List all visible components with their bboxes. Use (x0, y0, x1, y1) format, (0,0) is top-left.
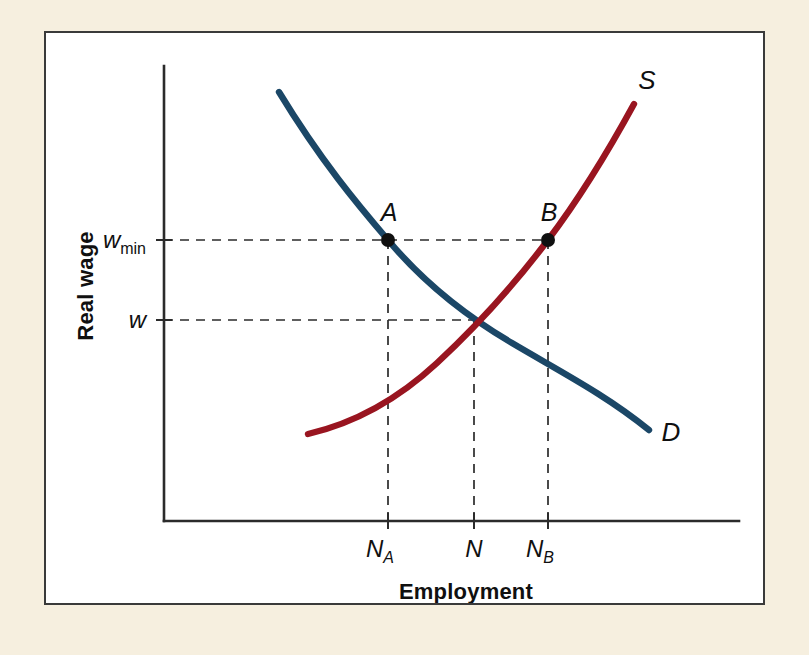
labor-market-chart: S D A B wmin w NA N NB Employment Real w… (46, 33, 763, 603)
x-tick-label-na: NA (366, 535, 394, 566)
demand-curve-label: D (662, 417, 681, 447)
point-a-label: A (379, 198, 398, 226)
point-b-marker (541, 233, 555, 247)
figure-panel: S D A B wmin w NA N NB Employment Real w… (44, 31, 765, 605)
y-tick-label-w: w (129, 306, 148, 333)
x-tick-label-n: N (465, 535, 483, 562)
point-a-marker (381, 233, 395, 247)
nb-subscript: B (543, 549, 554, 566)
y-tick-label-wmin: wmin (103, 226, 146, 257)
y-axis-title: Real wage (73, 231, 98, 340)
wmin-subscript: min (120, 240, 146, 257)
wmin-base: w (103, 226, 122, 253)
supply-curve-label: S (638, 65, 656, 95)
na-base: N (366, 535, 384, 562)
na-subscript: A (382, 549, 394, 566)
demand-curve (279, 92, 649, 430)
x-tick-label-nb: NB (526, 535, 554, 566)
x-axis-title: Employment (399, 579, 533, 603)
point-b-label: B (541, 198, 558, 226)
nb-base: N (526, 535, 544, 562)
